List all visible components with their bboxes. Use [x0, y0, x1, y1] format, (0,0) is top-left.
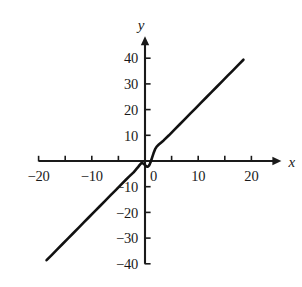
y-tick-label: −20 [116, 205, 138, 221]
y-tick-label: −40 [116, 256, 138, 272]
y-tick-label: 20 [124, 102, 138, 118]
y-tick-label: 40 [124, 50, 138, 66]
x-tick-label: −10 [81, 168, 103, 184]
y-axis-label: y [136, 17, 145, 33]
y-tick-label: −30 [116, 230, 138, 246]
x-axis-arrow-icon [272, 157, 281, 165]
origin-label: 0 [150, 168, 157, 184]
y-tick-label: −10 [116, 179, 138, 195]
figure-canvas: −20−101020−40−30−20−10102030400 xy [0, 0, 302, 287]
chart-plot: −20−101020−40−30−20−10102030400 xy [0, 0, 302, 287]
axis-names-group: xy [136, 17, 296, 169]
y-tick-label: 30 [124, 76, 138, 92]
x-tick-label: 10 [191, 168, 205, 184]
y-tick-label: 10 [124, 128, 138, 144]
y-axis-arrow-icon [141, 36, 149, 45]
x-tick-label: −20 [28, 168, 50, 184]
x-tick-label: 20 [244, 168, 258, 184]
x-axis-label: x [287, 154, 295, 170]
